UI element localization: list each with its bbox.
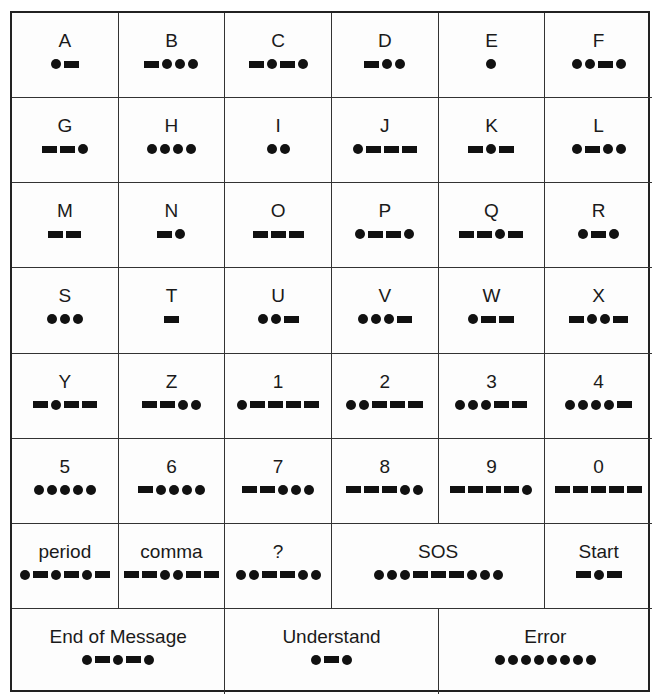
dash-icon xyxy=(250,401,265,408)
dot-icon xyxy=(188,59,198,69)
morse-label: R xyxy=(592,200,606,222)
dash-icon xyxy=(42,146,57,153)
morse-label: M xyxy=(57,200,73,222)
dash-icon xyxy=(33,401,48,408)
dash-icon xyxy=(390,401,405,408)
dot-icon xyxy=(359,400,369,410)
dash-icon xyxy=(499,146,514,153)
morse-label: E xyxy=(485,30,498,52)
morse-cell-9: 9 xyxy=(439,439,546,524)
morse-code-symbols xyxy=(468,313,514,325)
morse-cell-r: R xyxy=(545,183,652,268)
dash-icon xyxy=(591,231,606,238)
dot-icon xyxy=(387,570,397,580)
dot-icon xyxy=(280,144,290,154)
dot-icon xyxy=(600,314,610,324)
dash-icon xyxy=(253,231,268,238)
morse-code-symbols xyxy=(236,569,321,581)
dot-icon xyxy=(609,229,619,239)
morse-code-symbols xyxy=(267,143,290,155)
morse-cell-q: Q xyxy=(439,183,546,268)
morse-code-symbols xyxy=(47,313,83,325)
morse-label: period xyxy=(38,541,91,563)
dot-icon xyxy=(173,144,183,154)
dot-icon xyxy=(585,59,595,69)
dot-icon xyxy=(86,485,96,495)
morse-code-symbols xyxy=(374,569,503,581)
dash-icon xyxy=(450,486,465,493)
morse-code-symbols xyxy=(258,313,299,325)
morse-code-symbols xyxy=(82,654,154,666)
dash-icon xyxy=(271,231,286,238)
dot-icon xyxy=(521,655,531,665)
morse-cell-comma: comma xyxy=(119,524,226,609)
dot-icon xyxy=(591,400,601,410)
dash-icon xyxy=(449,571,464,578)
morse-label: I xyxy=(276,115,281,137)
dot-icon xyxy=(481,400,491,410)
dash-icon xyxy=(346,486,361,493)
dash-icon xyxy=(569,316,584,323)
dash-icon xyxy=(324,656,339,663)
morse-code-chart: ABCDEFGHIJKLMNOPQRSTUVWXYZ1234567890peri… xyxy=(10,11,650,692)
dot-icon xyxy=(547,655,557,665)
dash-icon xyxy=(289,231,304,238)
morse-cell-u: U xyxy=(225,268,332,353)
morse-cell-7: 7 xyxy=(225,439,332,524)
morse-cell-z: Z xyxy=(119,354,226,439)
dot-icon xyxy=(156,485,166,495)
dot-icon xyxy=(47,314,57,324)
dash-icon xyxy=(262,571,277,578)
morse-label: Y xyxy=(58,371,71,393)
dot-icon xyxy=(173,570,183,580)
morse-label: Error xyxy=(524,626,566,648)
morse-label: H xyxy=(165,115,179,137)
dash-icon xyxy=(280,61,295,68)
dot-icon xyxy=(51,570,61,580)
dot-icon xyxy=(508,655,518,665)
dash-icon xyxy=(617,401,632,408)
dash-icon xyxy=(384,146,399,153)
dash-icon xyxy=(64,571,79,578)
morse-code-symbols xyxy=(346,484,423,496)
morse-code-symbols xyxy=(364,58,405,70)
dot-icon xyxy=(186,144,196,154)
dot-icon xyxy=(271,314,281,324)
dash-icon xyxy=(431,571,446,578)
dot-icon xyxy=(382,59,392,69)
morse-code-symbols xyxy=(51,58,79,70)
morse-label: L xyxy=(593,115,604,137)
dot-icon xyxy=(384,314,394,324)
dot-icon xyxy=(258,314,268,324)
dash-icon xyxy=(585,146,600,153)
dash-icon xyxy=(126,656,141,663)
dot-icon xyxy=(73,485,83,495)
morse-code-symbols xyxy=(455,399,527,411)
morse-cell-end-of-message: End of Message xyxy=(12,609,225,694)
morse-cell-m: M xyxy=(12,183,119,268)
morse-label: G xyxy=(57,115,72,137)
morse-label: U xyxy=(271,285,285,307)
dot-icon xyxy=(249,570,259,580)
dash-icon xyxy=(413,571,428,578)
morse-cell-k: K xyxy=(439,98,546,183)
dot-icon xyxy=(298,59,308,69)
morse-label: A xyxy=(58,30,71,52)
morse-cell-n: N xyxy=(119,183,226,268)
dot-icon xyxy=(182,485,192,495)
morse-cell-3: 3 xyxy=(439,354,546,439)
dot-icon xyxy=(51,59,61,69)
dash-icon xyxy=(33,571,48,578)
morse-cell-b: B xyxy=(119,13,226,98)
dot-icon xyxy=(51,400,61,410)
morse-label: S xyxy=(58,285,71,307)
morse-code-symbols xyxy=(124,569,219,581)
dash-icon xyxy=(95,656,110,663)
morse-code-symbols xyxy=(42,143,88,155)
dash-icon xyxy=(576,571,591,578)
dot-icon xyxy=(572,59,582,69)
dash-icon xyxy=(504,486,519,493)
dot-icon xyxy=(587,314,597,324)
morse-code-symbols xyxy=(576,569,622,581)
morse-label: N xyxy=(165,200,179,222)
